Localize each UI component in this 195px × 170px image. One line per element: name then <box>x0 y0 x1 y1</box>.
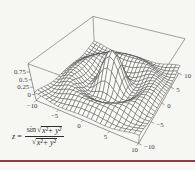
x-tick-label: −10 <box>27 102 38 109</box>
y-tick-label: −10 <box>144 143 155 150</box>
z-tick-label: 0.5 <box>19 76 28 83</box>
z-tick-label: 0.25 <box>17 83 29 90</box>
formula-annotation: z = sin √ x²+ y² √ x²+ y² <box>12 126 64 148</box>
y-tick-label: 10 <box>184 72 191 79</box>
formula-radicand: x²+ y² <box>41 126 62 135</box>
formula-sin-function: sin <box>27 126 36 134</box>
x-tick-label: −5 <box>51 112 59 119</box>
y-tick-label: −5 <box>157 121 165 128</box>
formula-lhs-variable: z <box>12 133 15 141</box>
y-tick <box>171 87 174 89</box>
formula-denominator: √ x²+ y² <box>32 137 57 147</box>
y-tick-label: 5 <box>176 86 180 93</box>
y-tick <box>162 103 165 105</box>
formula-radicand: x²+ y² <box>36 138 57 147</box>
x-tick <box>81 120 83 122</box>
y-tick <box>179 73 182 75</box>
z-tick-label: 0 <box>27 91 31 98</box>
page: −10−50510−10−5051000.250.50.75 z = sin √… <box>0 0 195 170</box>
z-tick-label: 0.75 <box>14 68 26 75</box>
box-edge <box>93 16 185 38</box>
formula-numerator: sin √ x²+ y² <box>25 126 65 137</box>
x-tick-label: 5 <box>104 133 108 140</box>
x-tick <box>108 131 110 133</box>
x-tick-label: 0 <box>77 122 81 129</box>
y-tick-label: 0 <box>167 102 171 109</box>
formula-fraction: sin √ x²+ y² √ x²+ y² <box>25 126 65 148</box>
formula-equals-sign: = <box>17 133 22 141</box>
y-tick <box>139 144 142 146</box>
page-margin-below-rule <box>0 162 195 170</box>
y-tick <box>151 122 154 124</box>
x-tick-label: 10 <box>131 146 138 153</box>
